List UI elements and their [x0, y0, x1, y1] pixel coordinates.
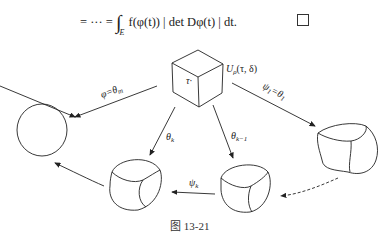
ball-circle — [17, 104, 67, 156]
arrow-theta-k-minus-1 — [213, 105, 233, 158]
arrow-psi-k — [172, 192, 215, 194]
deformed-cube-k-minus-1 — [221, 165, 270, 212]
label-phi-theta-m: φ=θm — [99, 82, 124, 102]
label-theta-k: θk — [166, 131, 175, 144]
arrow-theta-k — [150, 107, 175, 155]
label-psi-k: ψk — [189, 177, 199, 190]
cube-icon — [172, 50, 223, 107]
figure-caption: 图 13-21 — [170, 220, 209, 232]
arrow-return-to-circle — [55, 163, 104, 186]
label-theta-k-minus-1: θk−1 — [231, 130, 247, 143]
deformed-cube-1 — [317, 124, 377, 174]
arrow-phi — [0, 86, 75, 117]
arrow-dashed — [281, 178, 338, 196]
label-neighborhood: Uρ(τ, δ) — [226, 63, 257, 76]
deformed-cube-k — [110, 160, 162, 211]
figure-diagram: Uρ(τ, δ) τ· φ=θm θk θk−1 ψ1=θ1 ψk 图 13-2… — [0, 0, 387, 242]
label-tau: τ· — [186, 75, 192, 86]
